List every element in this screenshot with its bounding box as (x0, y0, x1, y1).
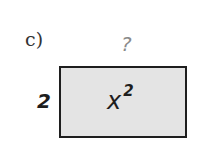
known-height-label: 2 (37, 89, 51, 113)
unknown-width-label: ? (121, 32, 132, 56)
area-expression: x2 (107, 86, 134, 115)
area-base: x (107, 87, 121, 115)
area-exponent: 2 (123, 82, 133, 100)
problem-label: c) (25, 28, 43, 50)
